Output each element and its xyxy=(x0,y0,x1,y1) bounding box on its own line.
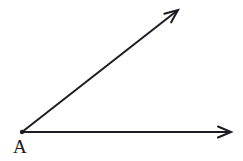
vertex-point xyxy=(20,130,24,134)
vertex-label-a: A xyxy=(13,137,27,156)
angle-diagram-figure: A xyxy=(0,0,243,161)
angle-diagram-canvas xyxy=(0,0,243,161)
figure-background xyxy=(0,0,243,161)
